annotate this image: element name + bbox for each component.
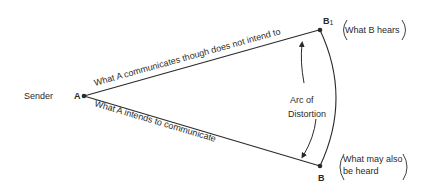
point-a-label: A <box>74 91 81 101</box>
point-b1-dot <box>318 28 323 33</box>
point-a-dot <box>82 94 87 99</box>
b1-note: What B hears <box>345 25 400 35</box>
point-b1-label: B1 <box>323 16 334 26</box>
b-note-line2: be heard <box>343 166 379 176</box>
arc-label-line1: Arc of <box>290 95 314 105</box>
b-note-line1: What may also <box>343 154 403 164</box>
arc-arrow-up <box>301 44 304 83</box>
sender-label: Sender <box>24 91 53 101</box>
upper-line-label: What A communicates though does not inte… <box>93 26 282 88</box>
arc-arrow-down <box>303 119 316 156</box>
lower-line-label: What A intends to communicate <box>93 98 217 143</box>
arc-label-line2: Distortion <box>288 109 326 119</box>
outer-arc <box>320 30 336 166</box>
b1-note-close-paren <box>402 20 406 40</box>
upper-line <box>84 30 319 96</box>
point-b-dot <box>318 164 323 169</box>
b-note-close-paren <box>403 154 407 180</box>
distortion-diagram: Sender A B1 B What A communicates though… <box>0 0 428 195</box>
point-b-label: B <box>318 173 325 183</box>
